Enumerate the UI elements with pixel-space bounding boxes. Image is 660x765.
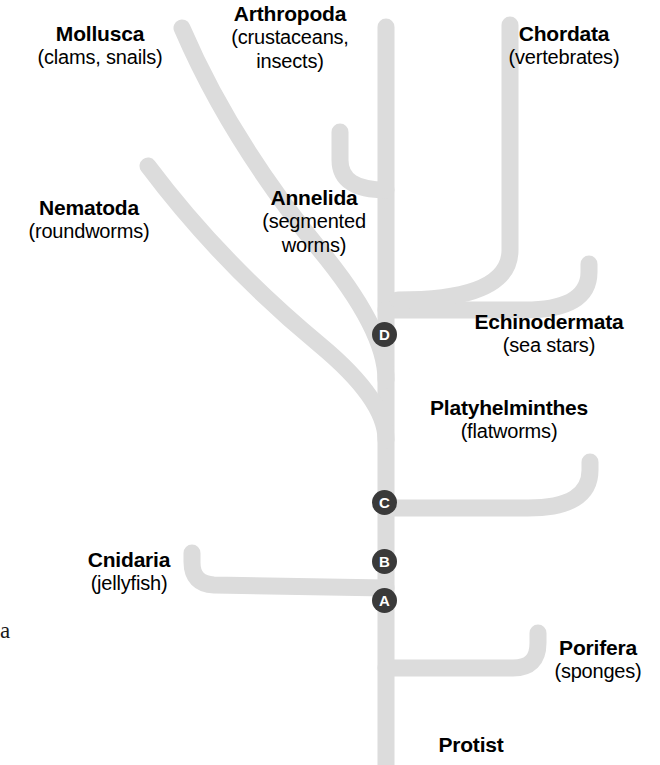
taxon-common-porifera: (sponges) [536,660,660,683]
taxon-name-porifera: Porifera [536,636,660,660]
node-marker-d[interactable]: D [372,322,397,347]
label-protist: Protist [406,733,536,757]
label-mollusca: Mollusca (clams, snails) [2,22,198,70]
label-porifera: Porifera (sponges) [536,636,660,684]
node-marker-c[interactable]: C [372,490,397,515]
taxon-name-protist: Protist [406,733,536,757]
taxon-common-nematoda: (roundworms) [0,220,178,243]
taxon-name-cnidaria: Cnidaria [67,548,191,572]
branch-platyhelminthes [386,462,590,508]
taxon-common-chordata: (vertebrates) [470,46,658,69]
node-marker-a[interactable]: A [372,588,397,613]
label-nematoda: Nematoda (roundworms) [0,196,178,244]
phylogenetic-tree-diagram: Mollusca (clams, snails) Arthropoda (cru… [0,0,660,765]
taxon-name-annelida: Annelida [243,186,385,210]
label-echinodermata: Echinodermata (sea stars) [443,310,655,358]
label-platyhelminthes: Platyhelminthes (flatworms) [401,396,617,444]
taxon-common2-arthropoda: insects) [205,50,375,73]
taxon-name-arthropoda: Arthropoda [205,2,375,26]
taxon-name-platyhelminthes: Platyhelminthes [401,396,617,420]
taxon-common-platyhelminthes: (flatworms) [401,420,617,443]
branch-cnidaria [192,553,386,588]
taxon-common-arthropoda: (crustaceans, [205,26,375,49]
taxon-name-mollusca: Mollusca [2,22,198,46]
taxon-name-echinodermata: Echinodermata [443,310,655,334]
label-chordata: Chordata (vertebrates) [470,22,658,70]
taxon-name-nematoda: Nematoda [0,196,178,220]
taxon-common-mollusca: (clams, snails) [2,46,198,69]
taxon-name-chordata: Chordata [470,22,658,46]
node-marker-b[interactable]: B [372,549,397,574]
label-arthropoda: Arthropoda (crustaceans, insects) [205,2,375,73]
taxon-common-echinodermata: (sea stars) [443,334,655,357]
label-annelida: Annelida (segmented worms) [243,186,385,257]
branch-porifera [386,633,538,668]
label-cnidaria: Cnidaria (jellyfish) [67,548,191,596]
taxon-common-cnidaria: (jellyfish) [67,572,191,595]
taxon-common-annelida: (segmented [243,210,385,233]
cropped-text-fragment: a [0,618,10,644]
taxon-common2-annelida: worms) [243,234,385,257]
